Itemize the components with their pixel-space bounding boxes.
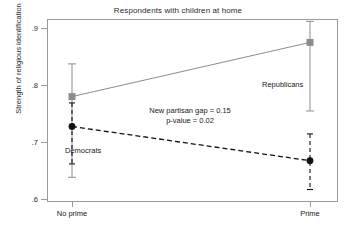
- series-line-democrats: [72, 127, 310, 161]
- marker-republicans-prime: [307, 39, 314, 46]
- series-label-democrats: Democrats: [65, 146, 101, 155]
- errorbar-republicans-prime: [306, 21, 314, 111]
- marker-republicans-no-prime: [69, 93, 76, 100]
- annotation-line-gap: New partisan gap = 0.15: [120, 106, 260, 116]
- chart-figure: Respondents with children at home Streng…: [0, 0, 356, 228]
- marker-democrats-no-prime: [69, 123, 76, 130]
- marker-democrats-prime: [307, 157, 314, 164]
- annotation-line-pvalue: p-value = 0.02: [120, 116, 260, 126]
- annotation-block: New partisan gap = 0.15 p-value = 0.02: [120, 106, 260, 126]
- series-label-republicans: Republicans: [262, 80, 303, 89]
